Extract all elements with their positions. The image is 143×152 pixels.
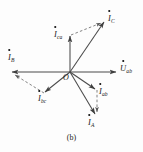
label-i-b: IB bbox=[8, 53, 14, 62]
label-u-ab: Uab bbox=[120, 64, 132, 73]
vector-i-c bbox=[70, 22, 104, 72]
vector-i-a bbox=[70, 72, 95, 114]
vector-i-ab bbox=[70, 72, 95, 89]
phasor-vector-canvas bbox=[0, 0, 143, 152]
label-i-c: IC bbox=[108, 14, 115, 23]
phasor-diagram-figure: IC Ica IB Ibc Uab Iab IA O (b) bbox=[0, 0, 143, 152]
label-i-bc: Ibc bbox=[38, 94, 46, 103]
label-i-ab: Iab bbox=[99, 87, 107, 96]
origin-label: O bbox=[63, 73, 69, 82]
figure-caption: (b) bbox=[0, 133, 143, 142]
label-i-ca: Ica bbox=[54, 30, 62, 39]
label-i-a: IA bbox=[88, 118, 94, 127]
